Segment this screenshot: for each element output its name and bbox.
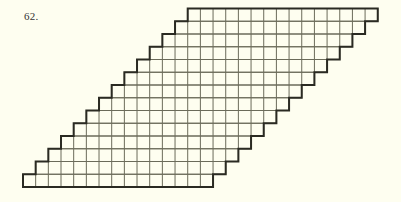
staircase-parallelogram-grid [0,0,401,202]
grid-inner-lines [23,9,378,188]
